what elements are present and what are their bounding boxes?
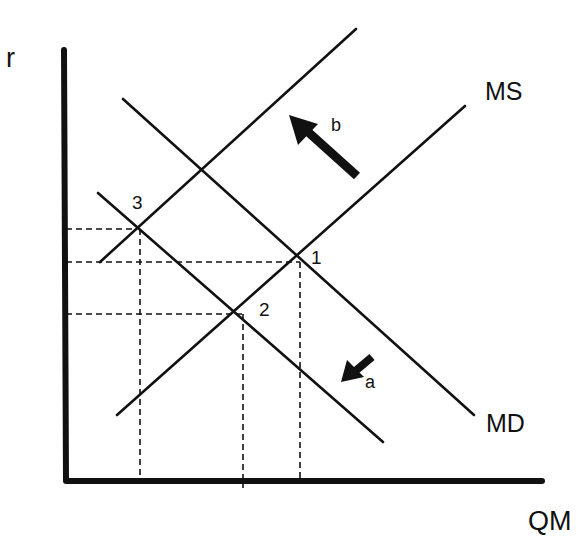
arrow-a-label: a	[365, 373, 375, 391]
ms-label: MS	[485, 79, 523, 104]
point-3-label: 3	[132, 193, 143, 212]
arrow-b-label: b	[331, 116, 341, 134]
axes	[64, 50, 542, 481]
point-1-label: 1	[311, 248, 322, 267]
ms-curve	[117, 106, 465, 415]
md-label: MD	[486, 411, 525, 436]
x-axis-label: QM	[528, 508, 572, 535]
axis-lines	[64, 50, 542, 481]
point-2-label: 2	[259, 300, 270, 319]
arrow-b-icon	[289, 115, 357, 176]
curves	[98, 29, 474, 442]
y-axis-label: r	[6, 45, 15, 72]
